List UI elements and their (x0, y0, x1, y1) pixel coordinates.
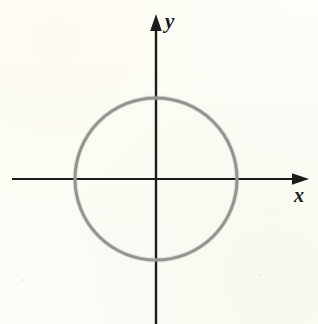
coordinate-plot (0, 0, 318, 324)
y-axis-label: y (165, 11, 174, 32)
x-axis-label: x (294, 185, 304, 205)
arrow-up-icon (150, 14, 162, 31)
figure-canvas: y x (0, 0, 318, 324)
